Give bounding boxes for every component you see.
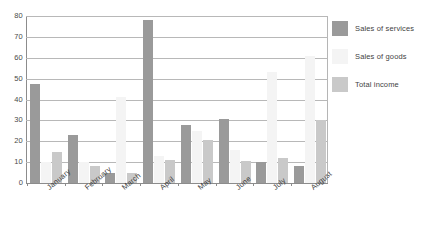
bar (154, 156, 164, 183)
bar (143, 20, 153, 183)
y-tick-label: 40 (1, 96, 23, 104)
x-tick-label: January (45, 185, 51, 192)
legend-item[interactable]: Sales of services (332, 14, 428, 42)
legend-item[interactable]: Sales of goods (332, 42, 428, 70)
bar-group (67, 16, 101, 183)
bar (116, 97, 126, 183)
bar-group (29, 16, 63, 183)
y-tick-label: 50 (1, 75, 23, 83)
legend-swatch-icon (332, 49, 348, 64)
y-tick-label: 60 (1, 54, 23, 62)
bars-layer (26, 16, 328, 183)
x-axis: JanuaryFebruaryMarchAprilMayJuneJulyAugu… (26, 185, 328, 235)
bar (30, 84, 40, 183)
y-tick-label: 80 (1, 12, 23, 20)
bar-group (255, 16, 289, 183)
bar (192, 131, 202, 183)
bar (256, 162, 266, 183)
bar (219, 119, 229, 183)
bar-group (218, 16, 252, 183)
y-axis: 80706050403020100 (0, 16, 23, 183)
chart-legend: Sales of servicesSales of goodsTotal inc… (332, 14, 428, 98)
x-tick-label: May (196, 185, 202, 192)
x-tick-label: April (158, 185, 164, 192)
x-tick-label: June (234, 185, 240, 192)
y-tick-label: 10 (1, 158, 23, 166)
legend-swatch-icon (332, 21, 348, 36)
x-tick-label: August (309, 185, 315, 192)
legend-item[interactable]: Total income (332, 70, 428, 98)
y-tick-label: 0 (1, 179, 23, 187)
x-tick-label: March (120, 185, 126, 192)
bar (181, 125, 191, 183)
bar-group (293, 16, 327, 183)
bar (305, 56, 315, 183)
y-tick-label: 30 (1, 117, 23, 125)
bar (230, 150, 240, 183)
bar-group (104, 16, 138, 183)
x-tick-label: February (83, 185, 89, 192)
legend-label: Sales of services (355, 24, 414, 33)
legend-swatch-icon (332, 77, 348, 92)
bar (294, 166, 304, 183)
bar (267, 72, 277, 183)
legend-label: Total income (355, 80, 399, 89)
bar-group (142, 16, 176, 183)
y-tick-label: 20 (1, 138, 23, 146)
legend-label: Sales of goods (355, 52, 407, 61)
bar-chart: 80706050403020100 JanuaryFebruaryMarchAp… (0, 0, 430, 235)
y-tick-label: 70 (1, 33, 23, 41)
plot-area (26, 16, 328, 183)
bar-group (180, 16, 214, 183)
x-tick-label: July (271, 185, 277, 192)
